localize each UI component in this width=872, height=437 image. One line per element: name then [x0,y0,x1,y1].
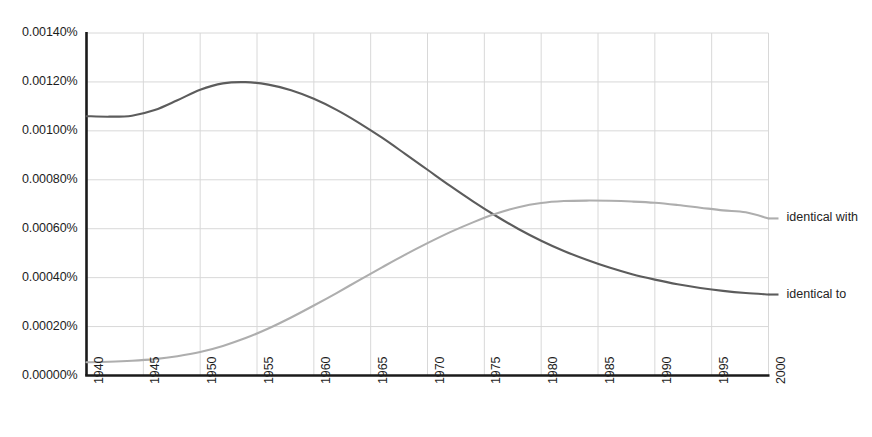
series-label-0[interactable]: identical to [787,287,847,301]
x-axis-tick-label: 1975 [489,356,503,383]
x-axis-tick-label: 1965 [376,356,390,383]
y-axis-tick-label: 0.00000% [0,368,78,382]
x-axis-tick-label: 1950 [205,356,219,383]
x-axis-tick-label: 1960 [319,356,333,383]
y-axis-tick-label: 0.00080% [0,172,78,186]
x-axis-tick-label: 1970 [433,356,447,383]
x-axis-tick-label: 1980 [546,356,560,383]
y-axis-tick-label: 0.00100% [0,123,78,137]
x-axis-tick-label: 2000 [774,356,788,383]
ngram-chart: 0.00140%0.00120%0.00100%0.00080%0.00060%… [0,0,872,437]
y-axis-tick-label: 0.00040% [0,270,78,284]
x-axis-tick-label: 1990 [660,356,674,383]
y-axis-tick-label: 0.00060% [0,221,78,235]
x-axis-tick-label: 1945 [148,356,162,383]
series-label-1[interactable]: identical with [787,210,859,224]
x-axis-tick-label: 1955 [262,356,276,383]
series-group [87,82,779,362]
y-axis-tick-label: 0.00120% [0,74,78,88]
y-axis-tick-label: 0.00140% [0,25,78,39]
y-axis-tick-label: 0.00020% [0,319,78,333]
x-axis-tick-label: 1995 [717,356,731,383]
x-axis-tick-label: 1940 [92,356,106,383]
x-axis-tick-label: 1985 [603,356,617,383]
